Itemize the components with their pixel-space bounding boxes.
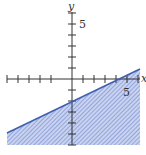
y-axis-label: y (67, 0, 75, 13)
x-tick-label-5: 5 (123, 86, 130, 99)
y-tick-label-5: 5 (79, 18, 86, 31)
x-axis-label: x (141, 72, 146, 85)
inequality-graph: y 5 x 5 (0, 0, 146, 155)
